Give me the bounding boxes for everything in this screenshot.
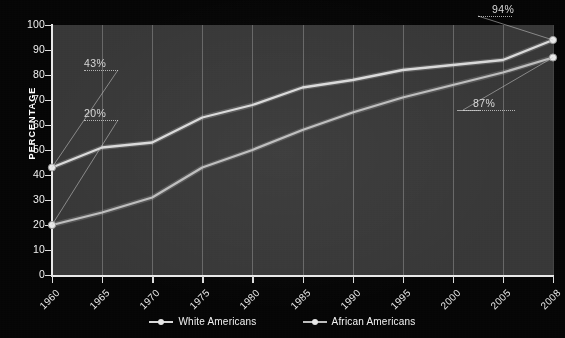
annotation-leader-line (478, 16, 553, 40)
chart-legend: White AmericansAfrican Americans (0, 316, 565, 327)
annotation-underline (84, 120, 118, 121)
data-annotation-label: 94% (492, 3, 514, 15)
annotation-underline (457, 110, 481, 111)
annotation-underline (84, 70, 118, 71)
legend-line-marker-icon (303, 317, 327, 326)
legend-line-marker-icon (149, 317, 173, 326)
legend-item[interactable]: White Americans (149, 316, 256, 327)
series-line[interactable] (52, 58, 553, 226)
series-layer (0, 0, 565, 338)
data-annotation-label: 20% (84, 107, 106, 119)
series-line-glow (52, 58, 553, 226)
legend-label: African Americans (332, 316, 416, 327)
data-annotation-label: 87% (473, 97, 495, 109)
data-annotation-label: 43% (84, 57, 106, 69)
legend-item[interactable]: African Americans (303, 316, 416, 327)
chart-root: 0102030405060708090100 PERCENTAGE 196019… (0, 0, 565, 338)
annotation-underline (478, 16, 512, 17)
legend-label: White Americans (178, 316, 256, 327)
